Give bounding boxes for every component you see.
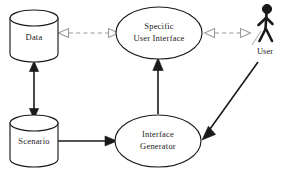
node-scenario-label: Scenario [18, 136, 49, 146]
cylinder-top [10, 10, 58, 26]
actor-leg-right-icon [266, 29, 272, 42]
edge-interface-generator-specific-user-interface [153, 58, 163, 114]
edge-scenario-interface-generator [58, 136, 117, 146]
open-arrowhead-right [241, 29, 251, 38]
node-specific-user-interface-label-line2: User Interface [133, 33, 184, 43]
actor-head-icon [262, 4, 271, 13]
node-user[interactable]: User [252, 4, 273, 56]
open-arrowhead-left [205, 29, 215, 38]
diagram-canvas: Specific User Interface : dashed bidirec… [0, 0, 286, 173]
edge-specific-user-interface-user [205, 29, 251, 38]
node-interface-generator-label-line1: Interface [142, 129, 174, 139]
cylinder-top [10, 115, 58, 131]
filled-arrowhead-up [153, 58, 163, 71]
actor-leg-left-icon [260, 29, 266, 42]
node-specific-user-interface-label-line1: Specific [144, 21, 173, 31]
edge-user-interface-generator [202, 62, 258, 140]
edge-line [210, 62, 258, 129]
actor-torso-icon [266, 14, 267, 30]
edge-data-specific-user-interface [59, 29, 119, 38]
architecture-diagram: Specific User Interface : dashed bidirec… [0, 0, 286, 173]
node-scenario[interactable]: Scenario [10, 115, 58, 167]
open-arrowhead-left [59, 29, 69, 38]
node-interface-generator[interactable]: Interface Generator [115, 115, 201, 167]
node-data-label: Data [26, 32, 43, 42]
node-specific-user-interface[interactable]: Specific User Interface [116, 7, 202, 59]
filled-arrowhead-diagonal [202, 126, 216, 140]
edge-data-scenario [29, 61, 38, 119]
node-user-label: User [257, 46, 273, 56]
node-data[interactable]: Data [10, 10, 58, 62]
node-interface-generator-label-line2: Generator [140, 141, 176, 151]
